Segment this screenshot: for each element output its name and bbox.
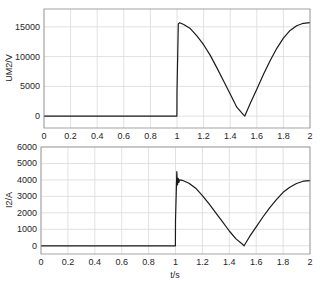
y-tick-label: 1000 [17, 224, 37, 234]
x-tick-label: 1.2 [196, 257, 209, 267]
y-tick-label: 4000 [17, 175, 37, 185]
y-tick-label: 0 [32, 241, 37, 251]
x-tick-label: 0 [38, 257, 43, 267]
x-tick-label: 0.6 [115, 257, 128, 267]
x-tick-label: 1.8 [277, 257, 290, 267]
x-tick-label: 2 [307, 257, 312, 267]
x-tick-label: 1.4 [223, 257, 236, 267]
top-voltage-plot: 00.20.40.60.811.21.41.61.820500010000150… [15, 9, 313, 141]
top-ylabel: UM2/V [4, 54, 14, 82]
x-tick-label: 1.8 [277, 131, 290, 141]
figure: 00.20.40.60.811.21.41.61.820500010000150… [0, 0, 321, 284]
y-tick-label: 15000 [15, 22, 40, 32]
x-tick-label: 0.4 [89, 257, 102, 267]
x-tick-label: 0.6 [118, 131, 131, 141]
x-tick-label: 1 [174, 131, 179, 141]
x-tick-label: 1.2 [197, 131, 210, 141]
x-tick-label: 1.6 [251, 131, 264, 141]
y-tick-label: 10000 [15, 52, 40, 62]
y-tick-label: 6000 [17, 142, 37, 152]
x-tick-label: 2 [307, 131, 312, 141]
x-tick-label: 1.6 [250, 257, 263, 267]
x-tick-label: 0.2 [62, 257, 75, 267]
x-tick-label: 0.2 [64, 131, 77, 141]
y-tick-label: 0 [35, 111, 40, 121]
x-tick-label: 0.8 [142, 257, 155, 267]
x-tick-label: 1.4 [224, 131, 237, 141]
x-tick-label: 0.8 [144, 131, 157, 141]
y-tick-label: 5000 [20, 81, 40, 91]
y-tick-label: 2000 [17, 208, 37, 218]
bottom-current-plot: 00.20.40.60.811.21.41.61.820100020003000… [17, 142, 313, 267]
bottom-xlabel: t/s [170, 270, 180, 280]
bottom-ylabel: I2/A [4, 192, 14, 208]
y-tick-label: 3000 [17, 191, 37, 201]
y-tick-label: 5000 [17, 158, 37, 168]
x-tick-label: 0 [41, 131, 46, 141]
x-tick-label: 1 [173, 257, 178, 267]
x-tick-label: 0.4 [91, 131, 104, 141]
